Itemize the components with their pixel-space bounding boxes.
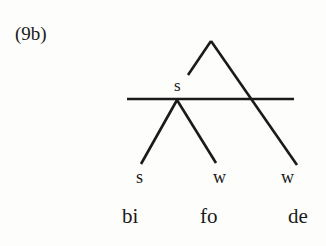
leaf-label-2: w	[213, 168, 226, 186]
syllable-3: de	[288, 206, 308, 227]
leaf-label-3: w	[281, 168, 294, 186]
metrical-tree-diagram: (9b) s s w w bi fo de	[0, 0, 326, 246]
node-right-branch	[177, 100, 216, 163]
node-left-branch	[141, 100, 177, 164]
syllable-2: fo	[200, 206, 218, 227]
apex-left-branch	[188, 41, 211, 75]
syllable-1: bi	[122, 206, 138, 227]
internal-node-label: s	[174, 77, 181, 94]
example-number-label: (9b)	[15, 24, 47, 43]
leaf-label-1: s	[136, 168, 143, 186]
tree-lines	[0, 0, 326, 246]
apex-right-branch	[211, 41, 297, 165]
